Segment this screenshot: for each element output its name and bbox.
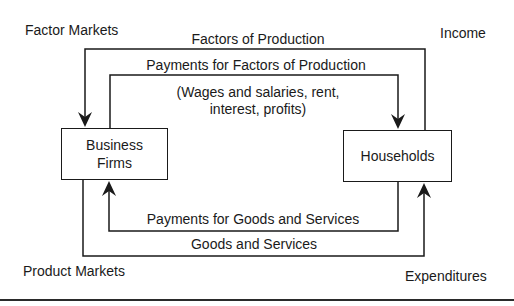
expenditures-label: Expenditures: [405, 268, 487, 284]
wages-note-line2: interest, profits): [210, 101, 306, 117]
business-firms-label-line2: Firms: [97, 154, 132, 172]
business-firms-label-line1: Business: [86, 136, 143, 154]
households-label: Households: [361, 147, 435, 165]
income-label: Income: [440, 25, 486, 41]
product-markets-label: Product Markets: [23, 263, 125, 279]
payments-for-factors-label: Payments for Factors of Production: [146, 57, 365, 73]
business-firms-box: Business Firms: [61, 128, 168, 180]
households-box: Households: [343, 130, 452, 182]
goods-and-services-label: Goods and Services: [191, 236, 317, 252]
payments-for-goods-label: Payments for Goods and Services: [147, 211, 359, 227]
factor-markets-label: Factor Markets: [25, 22, 118, 38]
wages-note-line1: (Wages and salaries, rent,: [177, 84, 340, 100]
circular-flow-diagram: Business Firms Households Factor Markets…: [0, 0, 514, 306]
factors-of-production-label: Factors of Production: [191, 31, 324, 47]
